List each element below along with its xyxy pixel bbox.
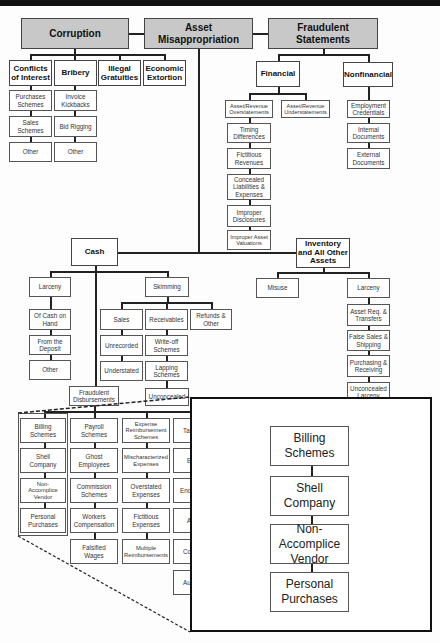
node-label: Billing Schemes bbox=[272, 431, 347, 461]
zoom-node-shell-company: Shell Company bbox=[270, 476, 349, 516]
zoom-node-non-accomplice-vendor: Non-Accomplice Vendor bbox=[270, 524, 349, 564]
node-label: Shell Company bbox=[272, 481, 347, 511]
zoom-panel: Billing Schemes Shell Company Non-Accomp… bbox=[190, 397, 432, 632]
zoom-node-personal-purchases: Personal Purchases bbox=[270, 572, 349, 612]
zoom-node-billing-schemes: Billing Schemes bbox=[270, 426, 349, 466]
node-label: Non-Accomplice Vendor bbox=[272, 522, 347, 567]
node-label: Personal Purchases bbox=[272, 577, 347, 607]
